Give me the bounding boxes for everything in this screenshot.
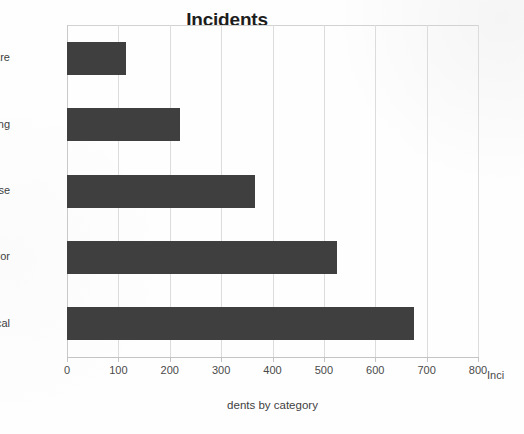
- x-tick-mark-0: [67, 358, 68, 362]
- y-tick-label-misuse: misuse: [0, 184, 10, 196]
- x-tick-mark-700: [427, 358, 428, 362]
- x-tick-mark-600: [375, 358, 376, 362]
- y-tick-label-hacking: hacking: [0, 118, 10, 130]
- bar-error: [67, 241, 337, 274]
- x-tick-label-200: 200: [161, 364, 179, 376]
- x-tick-label-800: 800: [469, 364, 487, 376]
- x-tick-mark-800: [478, 358, 479, 362]
- x-tick-label-100: 100: [109, 364, 127, 376]
- gridline-800: [478, 25, 479, 357]
- x-tick-label-300: 300: [212, 364, 230, 376]
- x-tick-mark-200: [170, 358, 171, 362]
- x-tick-mark-100: [118, 358, 119, 362]
- y-tick-label-error: error: [0, 250, 10, 262]
- bar-malware: [67, 42, 126, 75]
- gridline-700: [427, 25, 428, 357]
- x-tick-mark-400: [273, 358, 274, 362]
- plot-area: [67, 25, 478, 357]
- x-tick-label-700: 700: [417, 364, 435, 376]
- bar-hacking: [67, 108, 180, 141]
- x-axis-title: dents by category: [67, 399, 478, 411]
- x-tick-mark-300: [221, 358, 222, 362]
- x-tick-label-400: 400: [263, 364, 281, 376]
- clipped-axis-title-overflow: Inci: [487, 369, 504, 381]
- x-tick-label-500: 500: [315, 364, 333, 376]
- bar-chart: Incidents malwarehackingmisuseerrorphysi…: [0, 0, 524, 434]
- x-tick-label-0: 0: [64, 364, 70, 376]
- bar-physical: [67, 307, 414, 340]
- y-tick-label-physical: physical: [0, 317, 10, 329]
- bar-misuse: [67, 175, 255, 208]
- x-tick-label-600: 600: [366, 364, 384, 376]
- x-tick-mark-500: [324, 358, 325, 362]
- y-tick-label-malware: malware: [0, 51, 10, 63]
